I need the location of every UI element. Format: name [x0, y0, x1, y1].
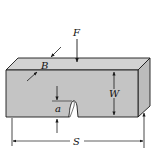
force-label: F [72, 27, 81, 38]
thickness-label: B [40, 60, 48, 71]
crack-length-label: a [55, 103, 61, 114]
three-point-bend-diagram: F B W a S [0, 0, 161, 150]
force-arrow: F [72, 27, 81, 62]
span-dimension: S [13, 136, 143, 147]
width-label: W [109, 88, 120, 99]
specimen-top-face [6, 58, 150, 70]
specimen-block [6, 58, 150, 117]
span-label: S [73, 136, 80, 147]
